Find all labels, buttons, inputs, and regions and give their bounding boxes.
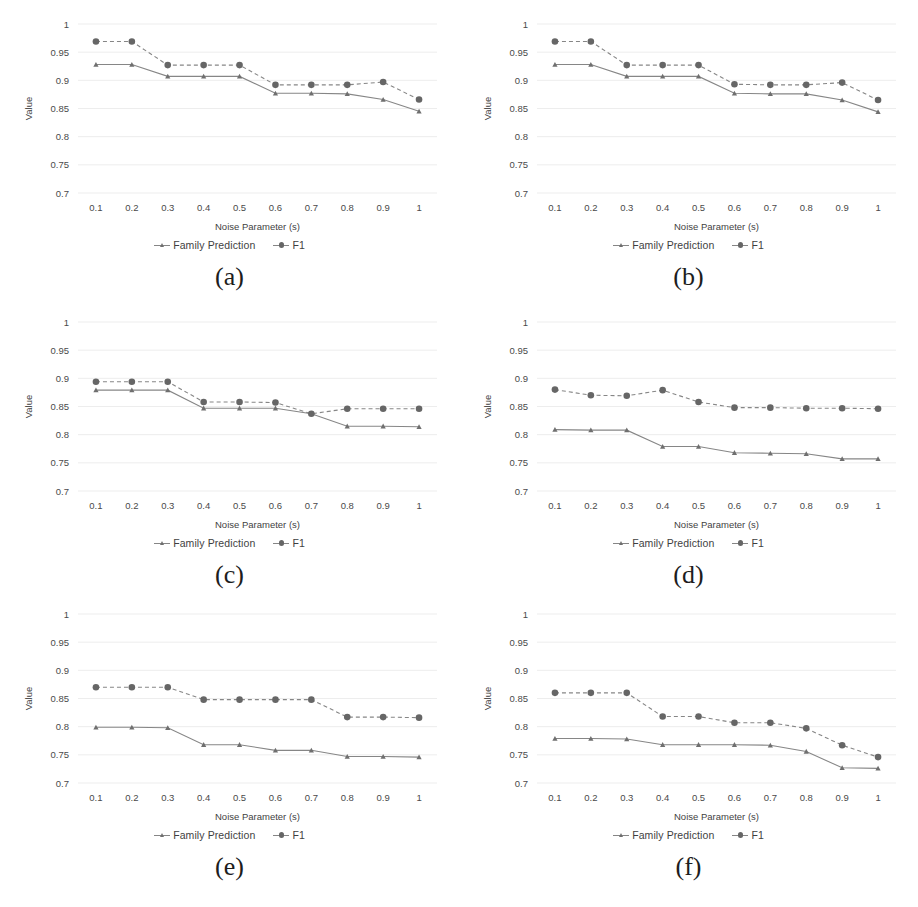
data-point-f1 xyxy=(416,405,423,412)
legend-entry-f1[interactable]: F1 xyxy=(273,538,304,549)
legend-entry-family-prediction[interactable]: Family Prediction xyxy=(154,240,255,251)
data-point-f1 xyxy=(93,684,100,691)
y-axis-title: Value xyxy=(23,395,34,419)
data-point-f1 xyxy=(839,742,846,749)
plot-area-e: 0.70.750.80.850.90.951Value0.10.20.30.40… xyxy=(0,592,459,824)
x-tick-label: 0.5 xyxy=(692,792,705,803)
x-tick-label: 0.6 xyxy=(728,792,741,803)
legend-label-family-prediction: Family Prediction xyxy=(632,240,714,251)
panel-caption-a: (a) xyxy=(0,256,459,290)
legend-entry-f1[interactable]: F1 xyxy=(273,830,304,841)
legend-d: Family PredictionF1 xyxy=(459,532,918,554)
data-point-f1 xyxy=(200,399,207,406)
data-point-f1 xyxy=(308,82,315,89)
x-tick-label: 0.9 xyxy=(377,500,390,511)
x-tick-label: 0.1 xyxy=(548,792,561,803)
legend-label-f1: F1 xyxy=(751,830,763,841)
data-point-f1 xyxy=(875,405,882,412)
figure-six-panel-line-charts: 0.70.750.80.850.90.951Value0.10.20.30.40… xyxy=(0,0,918,907)
data-point-f1 xyxy=(803,82,810,89)
panel-caption-e: (e) xyxy=(0,846,459,880)
data-point-f1 xyxy=(272,696,279,703)
y-tick-label: 0.8 xyxy=(515,721,528,732)
series-line-d-f1 xyxy=(555,390,878,409)
y-tick-label: 0.8 xyxy=(515,429,528,440)
data-point-f1 xyxy=(695,62,702,69)
legend-label-f1: F1 xyxy=(292,538,304,549)
legend-entry-family-prediction[interactable]: Family Prediction xyxy=(613,240,714,251)
legend-marker-triangle-icon xyxy=(613,830,629,840)
legend-entry-family-prediction[interactable]: Family Prediction xyxy=(154,830,255,841)
plot-area-c: 0.70.750.80.850.90.951Value0.10.20.30.40… xyxy=(0,300,459,532)
x-tick-label: 0.3 xyxy=(620,792,633,803)
x-tick-label: 0.4 xyxy=(197,792,210,803)
x-axis-title: Noise Parameter (s) xyxy=(215,519,300,530)
legend-entry-f1[interactable]: F1 xyxy=(273,240,304,251)
legend-entry-f1[interactable]: F1 xyxy=(732,538,763,549)
x-tick-label: 0.3 xyxy=(161,202,174,213)
x-axis-title: Noise Parameter (s) xyxy=(215,221,300,232)
data-point-f1 xyxy=(129,38,136,45)
y-tick-label: 0.75 xyxy=(51,159,70,170)
y-tick-label: 0.8 xyxy=(56,131,69,142)
y-tick-label: 1 xyxy=(64,317,69,328)
x-tick-label: 1 xyxy=(416,202,421,213)
x-tick-label: 0.9 xyxy=(377,792,390,803)
legend-c: Family PredictionF1 xyxy=(0,532,459,554)
series-line-e-family-prediction xyxy=(96,727,419,757)
series-line-f-f1 xyxy=(555,693,878,757)
data-point-f1 xyxy=(695,713,702,720)
legend-b: Family PredictionF1 xyxy=(459,234,918,256)
legend-label-f1: F1 xyxy=(751,538,763,549)
chart-panel-a: 0.70.750.80.850.90.951Value0.10.20.30.40… xyxy=(0,2,459,290)
legend-label-f1: F1 xyxy=(751,240,763,251)
x-tick-label: 0.2 xyxy=(125,792,138,803)
legend-entry-family-prediction[interactable]: Family Prediction xyxy=(154,538,255,549)
y-tick-label: 0.9 xyxy=(56,75,69,86)
data-point-f1 xyxy=(803,725,810,732)
x-tick-label: 0.5 xyxy=(692,500,705,511)
x-tick-label: 0.6 xyxy=(269,500,282,511)
x-tick-label: 1 xyxy=(416,500,421,511)
data-point-f1 xyxy=(272,82,279,89)
y-tick-label: 1 xyxy=(523,19,528,30)
series-line-f-family-prediction xyxy=(555,739,878,769)
data-point-f1 xyxy=(839,79,846,86)
series-line-b-family-prediction xyxy=(555,65,878,112)
y-tick-label: 0.9 xyxy=(56,373,69,384)
series-line-a-f1 xyxy=(96,41,419,99)
data-point-f1 xyxy=(731,404,738,411)
data-point-f1 xyxy=(236,62,243,69)
legend-entry-f1[interactable]: F1 xyxy=(732,830,763,841)
x-tick-label: 0.5 xyxy=(692,202,705,213)
y-tick-label: 0.9 xyxy=(515,665,528,676)
panel-caption-f: (f) xyxy=(459,846,918,880)
y-tick-label: 0.95 xyxy=(510,345,529,356)
legend-marker-circle-icon xyxy=(273,830,289,840)
x-tick-label: 0.4 xyxy=(656,500,669,511)
x-tick-label: 1 xyxy=(875,500,880,511)
legend-marker-triangle-icon xyxy=(154,830,170,840)
x-tick-label: 1 xyxy=(875,202,880,213)
x-tick-label: 0.1 xyxy=(548,500,561,511)
legend-marker-circle-icon xyxy=(732,538,748,548)
data-point-f1 xyxy=(767,719,774,726)
x-tick-label: 0.9 xyxy=(836,792,849,803)
legend-entry-family-prediction[interactable]: Family Prediction xyxy=(613,830,714,841)
legend-entry-family-prediction[interactable]: Family Prediction xyxy=(613,538,714,549)
data-point-f1 xyxy=(659,713,666,720)
data-point-f1 xyxy=(380,405,387,412)
x-tick-label: 0.6 xyxy=(269,202,282,213)
y-tick-label: 1 xyxy=(64,609,69,620)
data-point-f1 xyxy=(416,96,423,103)
series-line-a-family-prediction xyxy=(96,65,419,112)
data-point-f1 xyxy=(767,82,774,89)
y-tick-label: 0.85 xyxy=(510,401,529,412)
y-tick-label: 0.85 xyxy=(51,401,70,412)
x-tick-label: 0.6 xyxy=(269,792,282,803)
legend-entry-f1[interactable]: F1 xyxy=(732,240,763,251)
x-tick-label: 0.7 xyxy=(764,500,777,511)
legend-label-family-prediction: Family Prediction xyxy=(173,240,255,251)
legend-marker-triangle-icon xyxy=(154,240,170,250)
data-point-f1 xyxy=(875,97,882,104)
